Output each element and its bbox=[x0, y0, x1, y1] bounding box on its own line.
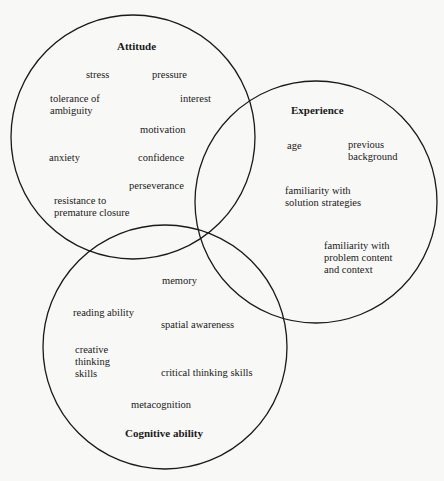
label-spatial-awareness: spatial awareness bbox=[161, 319, 234, 331]
label-familiarity-solution-strategies: familiarity with solution strategies bbox=[285, 185, 361, 209]
label-creative-thinking-skills: creative thinking skills bbox=[75, 344, 110, 380]
label-previous-background: previous background bbox=[348, 139, 398, 163]
label-memory: memory bbox=[162, 275, 197, 287]
experience-title: Experience bbox=[291, 104, 344, 116]
label-familiarity-problem-content: familiarity with problem content and con… bbox=[324, 240, 393, 276]
label-interest: interest bbox=[180, 93, 211, 105]
label-perseverance: perseverance bbox=[129, 180, 184, 192]
cognitive-title: Cognitive ability bbox=[125, 427, 203, 439]
label-anxiety: anxiety bbox=[49, 152, 80, 164]
venn-diagram: Attitude stress pressure tolerance of am… bbox=[0, 0, 444, 481]
label-motivation: motivation bbox=[140, 124, 186, 136]
label-critical-thinking-skills: critical thinking skills bbox=[161, 367, 253, 379]
attitude-title: Attitude bbox=[117, 40, 156, 52]
label-pressure: pressure bbox=[152, 69, 187, 81]
label-resistance-to-premature-closure: resistance to premature closure bbox=[54, 195, 130, 219]
label-confidence: confidence bbox=[138, 152, 184, 164]
label-age: age bbox=[287, 140, 302, 152]
label-tolerance-of-ambiguity: tolerance of ambiguity bbox=[50, 93, 100, 117]
label-stress: stress bbox=[86, 69, 109, 81]
label-metacognition: metacognition bbox=[131, 399, 191, 411]
label-reading-ability: reading ability bbox=[73, 307, 134, 319]
